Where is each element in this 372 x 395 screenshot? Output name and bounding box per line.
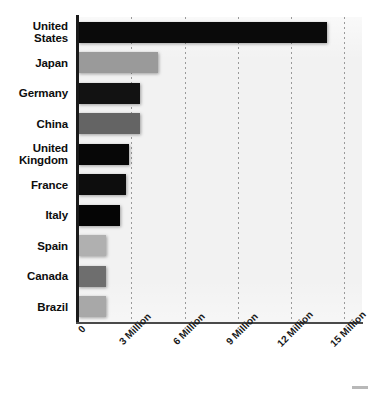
bar-row [78,292,362,323]
category-label-italy: Italy [0,200,74,231]
category-label-germany: Germany [0,78,74,109]
bar-row [78,17,362,48]
plot-area [78,17,362,322]
bar [78,113,140,134]
bar [78,83,140,104]
bar [78,296,106,317]
value-axis-tick-label: 0 [76,323,88,335]
bar [78,22,327,43]
bar-row [78,109,362,140]
bar-row [78,139,362,170]
bar [78,144,129,165]
bar [78,266,106,287]
bar [78,174,126,195]
category-axis-labels: United States Japan Germany China United… [0,17,74,322]
bar-series [78,17,362,322]
category-label-united-states: United States [0,17,74,48]
bar-chart-figure: United States Japan Germany China United… [0,0,372,395]
category-label-france: France [0,170,74,201]
category-label-canada: Canada [0,261,74,292]
bar-row [78,48,362,79]
bar [78,205,120,226]
category-label-united-kingdom: United Kingdom [0,139,74,170]
category-label-china: China [0,109,74,140]
category-label-brazil: Brazil [0,292,74,323]
bar-row [78,261,362,292]
bar [78,52,158,73]
bar-row [78,200,362,231]
value-axis-tick-labels: 03 Million6 Million9 Million12 Million15… [0,325,372,395]
bar-row [78,78,362,109]
category-label-japan: Japan [0,48,74,79]
bar-row [78,231,362,262]
bar-row [78,170,362,201]
corner-artifact [352,386,368,389]
y-axis-line [76,15,79,324]
bar [78,235,106,256]
x-axis-line [76,322,363,324]
category-label-spain: Spain [0,231,74,262]
